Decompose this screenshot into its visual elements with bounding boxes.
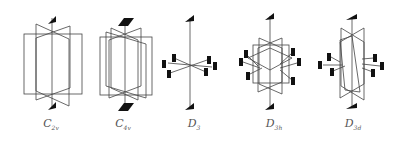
d3d-bottom-symbol <box>346 103 357 109</box>
d3-top-symbol <box>185 15 194 22</box>
d3h-bottom-symbol <box>265 103 274 110</box>
d3-figure <box>168 18 212 108</box>
d3d-figure <box>323 18 380 108</box>
c2v-figure <box>24 18 82 108</box>
c4v-bottom-symbol <box>118 103 134 111</box>
label-d3: D3 <box>174 117 214 131</box>
c4v-figure <box>100 18 152 108</box>
c4v-top-symbol <box>118 18 134 26</box>
label-d3h: D3h <box>254 117 294 131</box>
c2v-top-symbol <box>48 16 56 24</box>
label-c4v: C4v <box>103 117 143 131</box>
label-d3d: D3d <box>333 117 373 131</box>
d3d-top-symbol <box>346 14 357 20</box>
label-c2v: C2v <box>31 117 71 131</box>
d3h-top-symbol <box>265 13 274 20</box>
d3-bottom-symbol <box>185 103 194 110</box>
d3h-figure <box>243 16 297 108</box>
